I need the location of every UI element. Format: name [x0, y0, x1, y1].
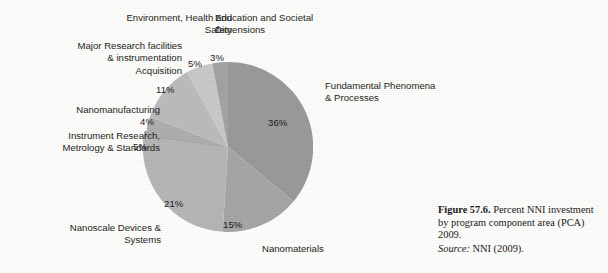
pie-value-education-societal: 3% — [210, 52, 224, 63]
pie-label-nanomanufacturing: Nanomanufacturing — [16, 104, 160, 116]
pie-label-instrument-research: Instrument Research, Metrology & Standar… — [4, 130, 160, 155]
pie-label-nanomaterials: Nanomaterials — [262, 243, 382, 255]
pie-value-major-research-facilities: 11% — [156, 84, 175, 95]
pie-label-fundamental-phenomena: Fundamental Phenomena & Processes — [325, 80, 465, 105]
pie-value-environment-health-safety: 5% — [188, 58, 202, 69]
pie-value-nanomaterials: 15% — [223, 219, 242, 230]
figure-source-text: NNI (2009). — [470, 243, 524, 254]
figure-container: 36% 15% 21% 5% 4% 11% 5% 3% Environment,… — [0, 0, 608, 273]
pie-value-nanomanufacturing: 4% — [140, 116, 154, 127]
figure-source: Source: NNI (2009). — [438, 243, 603, 256]
pie-value-nanoscale-devices: 21% — [164, 198, 183, 209]
figure-source-label: Source: — [438, 243, 470, 254]
pie-label-education-societal: Education and Societal Dimensions — [215, 12, 335, 37]
figure-caption: Figure 57.6. Percent NNI investment by p… — [438, 204, 603, 255]
pie-label-major-research-facilities: Major Research facilities & instrumentat… — [38, 40, 182, 77]
figure-number: Figure 57.6. — [438, 204, 491, 215]
pie-label-nanoscale-devices: Nanoscale Devices & Systems — [34, 222, 161, 247]
pie-label-environment-health-safety: Environment, Health and Safety — [78, 12, 232, 37]
pie-value-fundamental-phenomena: 36% — [268, 117, 287, 128]
